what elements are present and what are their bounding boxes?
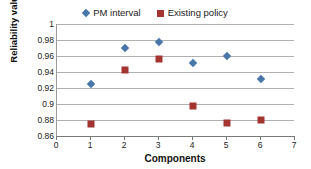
scatter-chart: PM interval Existing policy Reliability … (0, 0, 311, 169)
diamond-marker-icon (82, 9, 90, 17)
legend-label-pm-interval: PM interval (93, 8, 141, 18)
x-axis-tick-label: 7 (292, 141, 297, 150)
data-point-pm-interval-2 (121, 44, 129, 52)
data-point-existing-policy-2 (122, 67, 129, 74)
gridline (57, 56, 294, 57)
x-axis-tick-label: 2 (122, 141, 127, 150)
data-point-existing-policy-3 (156, 56, 163, 63)
chart-legend: PM interval Existing policy (0, 5, 311, 21)
y-axis-tick-label: 0.92 (37, 84, 54, 93)
x-axis-tick-label: 4 (190, 141, 195, 150)
square-marker-icon (157, 10, 164, 17)
gridline (57, 104, 294, 105)
gridline (57, 24, 294, 25)
y-axis-tick-label: 1 (49, 20, 54, 29)
gridline (57, 88, 294, 89)
data-point-pm-interval-1 (87, 80, 95, 88)
y-axis-tick-label: 0.86 (37, 132, 54, 141)
x-axis-tick-label: 3 (156, 141, 161, 150)
legend-entry-existing-policy[interactable]: Existing policy (157, 8, 228, 18)
plot-area (56, 24, 294, 136)
legend-label-existing-policy: Existing policy (168, 8, 228, 18)
x-axis-title: Components (56, 154, 294, 164)
x-axis-tick-label: 1 (88, 141, 93, 150)
x-axis-tick-label: 6 (258, 141, 263, 150)
x-axis-tick-label: 0 (54, 141, 59, 150)
data-point-existing-policy-4 (190, 103, 197, 110)
y-axis-tick-label: 0.94 (37, 68, 54, 77)
y-axis-tick-label: 0.9 (42, 100, 54, 109)
gridline (57, 40, 294, 41)
y-axis-tick-label: 0.98 (37, 36, 54, 45)
data-point-existing-policy-1 (88, 121, 95, 128)
x-axis-line (56, 136, 294, 137)
data-point-existing-policy-6 (258, 117, 265, 124)
data-point-existing-policy-5 (224, 120, 231, 127)
data-point-pm-interval-4 (189, 59, 197, 67)
y-axis-tick-label: 0.88 (37, 116, 54, 125)
x-axis-tick-label: 5 (224, 141, 229, 150)
data-point-pm-interval-5 (223, 52, 231, 60)
y-axis-tick-label: 0.96 (37, 52, 54, 61)
gridline (57, 72, 294, 73)
legend-entry-pm-interval[interactable]: PM interval (83, 8, 141, 18)
y-axis-tick-labels: 0.860.880.90.920.940.960.981 (18, 24, 54, 136)
data-point-pm-interval-6 (257, 75, 265, 83)
